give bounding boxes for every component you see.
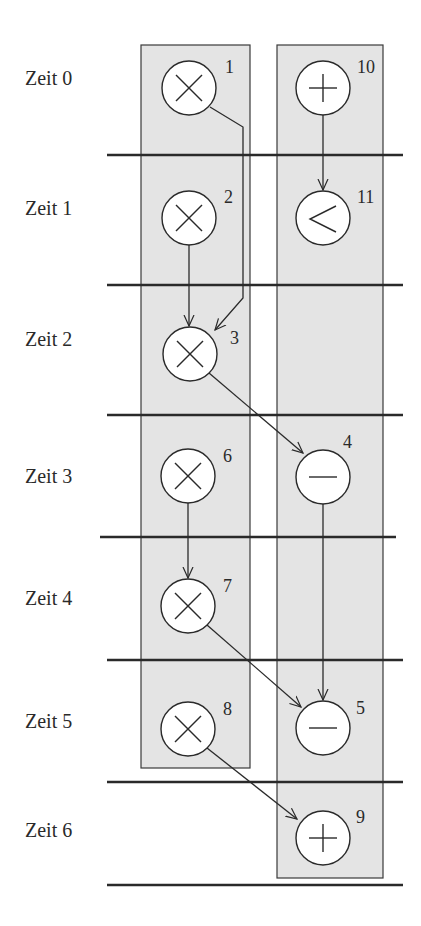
time-label-0: Zeit 0 <box>25 68 72 88</box>
node-number-10: 10 <box>357 58 375 76</box>
node-2-multiply-icon <box>162 191 216 245</box>
node-number-8: 8 <box>223 700 232 718</box>
node-3-multiply-icon <box>163 327 217 381</box>
node-7-multiply-icon <box>161 579 215 633</box>
node-4-subtract-icon <box>296 450 350 504</box>
node-number-5: 5 <box>356 699 365 717</box>
node-6-multiply-icon <box>161 449 215 503</box>
node-number-7: 7 <box>223 577 232 595</box>
node-number-6: 6 <box>223 447 232 465</box>
node-10-add-icon <box>296 61 350 115</box>
time-label-6: Zeit 6 <box>25 820 72 840</box>
node-1-multiply-icon <box>162 61 216 115</box>
node-11-less-than-icon <box>296 191 350 245</box>
node-5-subtract-icon <box>296 701 350 755</box>
node-number-3: 3 <box>230 329 239 347</box>
node-number-2: 2 <box>224 188 233 206</box>
time-label-2: Zeit 2 <box>25 329 72 349</box>
schedule-diagram <box>0 0 421 926</box>
node-number-4: 4 <box>343 433 352 451</box>
node-9-add-icon <box>296 811 350 865</box>
node-number-11: 11 <box>357 188 374 206</box>
time-label-4: Zeit 4 <box>25 588 72 608</box>
time-label-3: Zeit 3 <box>25 466 72 486</box>
node-8-multiply-icon <box>161 702 215 756</box>
node-number-9: 9 <box>356 808 365 826</box>
time-label-5: Zeit 5 <box>25 711 72 731</box>
time-label-1: Zeit 1 <box>25 198 72 218</box>
node-number-1: 1 <box>225 58 234 76</box>
